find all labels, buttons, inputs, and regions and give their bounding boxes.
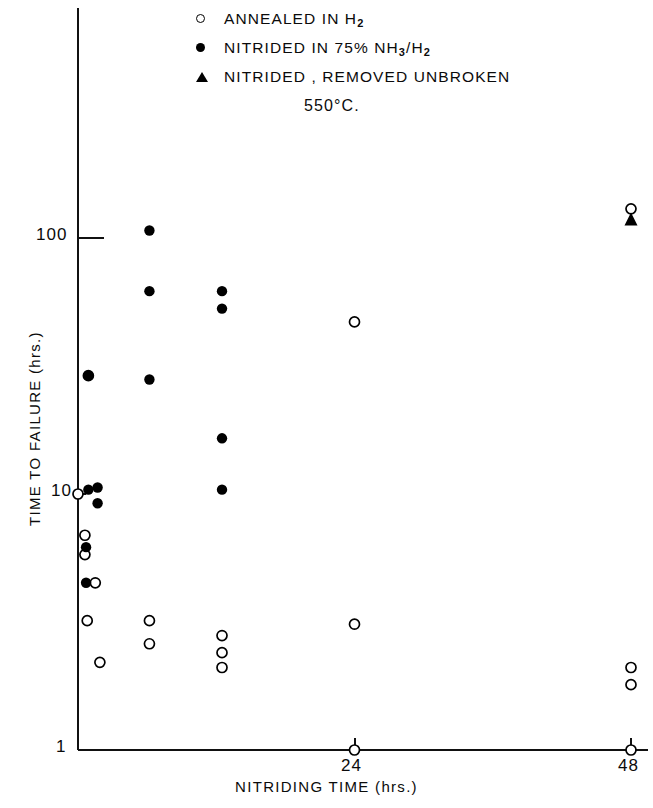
data-point (626, 204, 636, 214)
legend: ANNEALED IN H2 NITRIDED IN 75% NH3/H2 NI… (196, 4, 626, 115)
open-circle-icon (196, 14, 224, 23)
data-point (350, 745, 360, 755)
legend-temperature: 550°C. (196, 97, 626, 115)
y-tick-label-10: 10 (51, 481, 72, 501)
x-axis-title: NITRIDING TIME (hrs.) (0, 778, 653, 795)
data-point (92, 498, 102, 508)
legend-label-unbroken: NITRIDED , REMOVED UNBROKEN (224, 68, 510, 86)
filled-triangle-icon (196, 72, 224, 82)
legend-label-nitrided: NITRIDED IN 75% NH3/H2 (224, 39, 431, 57)
data-point (217, 303, 227, 313)
data-point (81, 578, 91, 588)
data-point (81, 542, 91, 552)
data-point (82, 616, 92, 626)
filled-circle-icon (196, 43, 224, 52)
data-point (217, 286, 227, 296)
data-point (626, 745, 636, 755)
data-point (144, 225, 154, 235)
x-tick-label-48: 48 (618, 756, 639, 776)
legend-label-annealed: ANNEALED IN H2 (224, 10, 364, 28)
data-point (144, 639, 154, 649)
legend-item-annealed: ANNEALED IN H2 (196, 4, 626, 33)
data-point (217, 663, 227, 673)
data-point (144, 286, 154, 296)
data-point (95, 657, 105, 667)
data-point (90, 578, 100, 588)
data-point (83, 370, 93, 380)
data-point (83, 484, 93, 494)
data-point (217, 433, 227, 443)
x-tick-label-24: 24 (341, 756, 362, 776)
plot-canvas (0, 0, 653, 808)
data-point (625, 213, 638, 226)
scatter-plot-figure: ANNEALED IN H2 NITRIDED IN 75% NH3/H2 NI… (0, 0, 653, 808)
data-point (73, 489, 83, 499)
data-point (350, 619, 360, 629)
data-point (217, 648, 227, 658)
y-tick-label-1: 1 (56, 737, 66, 757)
data-point (350, 317, 360, 327)
legend-item-nitrided: NITRIDED IN 75% NH3/H2 (196, 33, 626, 62)
data-point (626, 663, 636, 673)
y-axis-title: TIME TO FAILURE (hrs.) (26, 299, 43, 559)
data-point-layer (73, 204, 638, 755)
data-point (626, 680, 636, 690)
data-point (92, 482, 102, 492)
legend-item-unbroken: NITRIDED , REMOVED UNBROKEN (196, 62, 626, 91)
data-point (217, 484, 227, 494)
data-point (144, 616, 154, 626)
data-point (80, 530, 90, 540)
data-point (144, 374, 154, 384)
data-point (217, 631, 227, 641)
y-tick-label-100: 100 (36, 225, 67, 245)
